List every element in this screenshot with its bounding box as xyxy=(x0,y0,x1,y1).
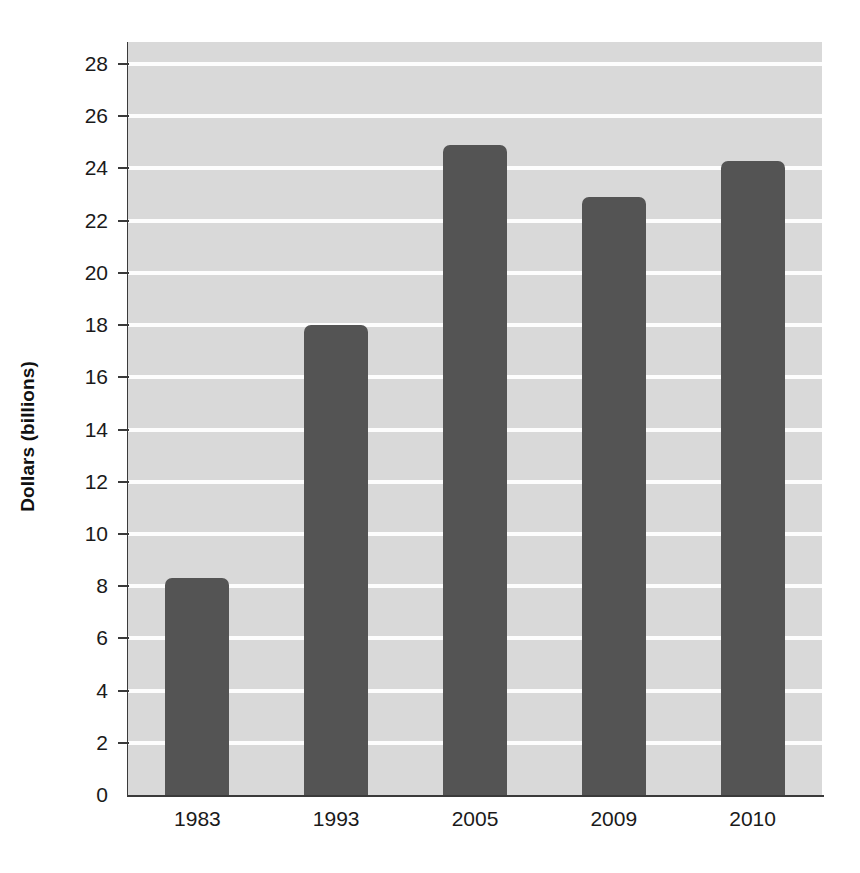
bar[interactable] xyxy=(304,325,368,795)
y-tick-mark xyxy=(118,429,129,431)
bar[interactable] xyxy=(443,145,507,795)
bar-chart: Dollars (billions) 024681012141618202224… xyxy=(0,0,860,873)
y-tick-label: 18 xyxy=(38,314,108,335)
x-tick-label: 1983 xyxy=(137,808,257,829)
y-tick-mark xyxy=(118,272,129,274)
gridline xyxy=(128,62,822,66)
bar[interactable] xyxy=(721,161,785,795)
y-tick-label: 6 xyxy=(38,627,108,648)
bar[interactable] xyxy=(165,578,229,795)
y-tick-label: 20 xyxy=(38,262,108,283)
y-tick-label: 16 xyxy=(38,366,108,387)
y-tick-label: 4 xyxy=(38,680,108,701)
gridline xyxy=(128,114,822,118)
y-tick-label: 24 xyxy=(38,157,108,178)
y-tick-mark xyxy=(118,690,129,692)
y-tick-mark xyxy=(118,376,129,378)
x-axis-line xyxy=(127,795,824,797)
y-tick-mark xyxy=(118,63,129,65)
x-tick-label: 2005 xyxy=(415,808,535,829)
y-tick-mark xyxy=(118,637,129,639)
y-tick-mark xyxy=(118,167,129,169)
y-tick-label: 22 xyxy=(38,210,108,231)
y-tick-label: 14 xyxy=(38,419,108,440)
x-tick-label: 2009 xyxy=(554,808,674,829)
x-tick-label: 1993 xyxy=(276,808,396,829)
y-tick-label: 28 xyxy=(38,53,108,74)
y-tick-label: 2 xyxy=(38,732,108,753)
y-tick-mark xyxy=(118,533,129,535)
y-tick-label: 0 xyxy=(38,784,108,805)
y-tick-mark xyxy=(118,742,129,744)
y-tick-label: 8 xyxy=(38,575,108,596)
plot-area xyxy=(128,42,822,795)
y-tick-mark xyxy=(118,481,129,483)
x-tick-label: 2010 xyxy=(693,808,813,829)
y-tick-mark xyxy=(118,585,129,587)
y-tick-mark xyxy=(118,324,129,326)
y-tick-label: 10 xyxy=(38,523,108,544)
y-tick-mark xyxy=(118,115,129,117)
y-tick-mark xyxy=(118,220,129,222)
y-tick-label: 12 xyxy=(38,471,108,492)
y-tick-label: 26 xyxy=(38,105,108,126)
bar[interactable] xyxy=(582,197,646,795)
